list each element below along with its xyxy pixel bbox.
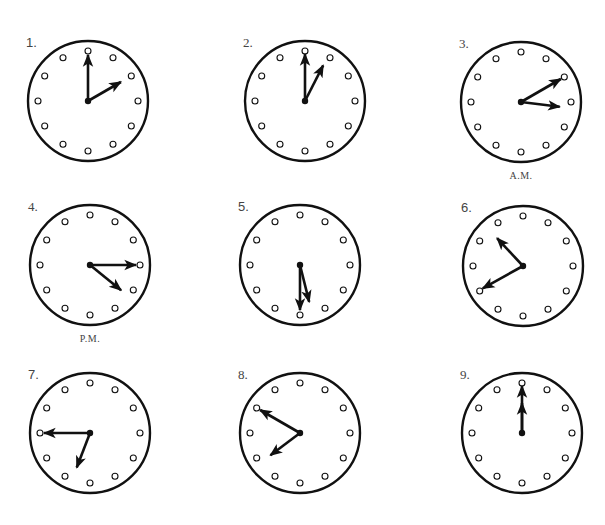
hour-marker-icon xyxy=(137,262,143,268)
clock-4: 4.P.M. xyxy=(28,199,150,344)
clock-8: 8. xyxy=(238,367,360,493)
hour-marker-icon xyxy=(495,306,501,312)
hour-marker-icon xyxy=(302,148,308,154)
hour-marker-icon xyxy=(347,262,353,268)
hour-marker-icon xyxy=(87,212,93,218)
hour-marker-icon xyxy=(60,141,66,147)
hour-marker-icon xyxy=(327,141,333,147)
hour-marker-icon xyxy=(476,455,482,461)
hour-marker-icon xyxy=(470,263,476,269)
hour-marker-icon xyxy=(563,288,569,294)
hour-marker-icon xyxy=(494,473,500,479)
clock-6: 6. xyxy=(461,200,583,326)
hour-marker-icon xyxy=(272,473,278,479)
hour-marker-icon xyxy=(545,306,551,312)
hour-marker-icon xyxy=(62,305,68,311)
hour-marker-icon xyxy=(35,98,41,104)
hour-marker-icon xyxy=(135,98,141,104)
hour-marker-icon xyxy=(340,455,346,461)
center-pivot-icon xyxy=(302,98,308,104)
hour-marker-icon xyxy=(272,305,278,311)
hour-marker-icon xyxy=(259,73,265,79)
hour-marker-icon xyxy=(87,480,93,486)
hour-marker-icon xyxy=(518,149,524,155)
hour-marker-icon xyxy=(475,74,481,80)
hour-marker-icon xyxy=(519,380,525,386)
hour-marker-icon xyxy=(44,405,50,411)
hour-marker-icon xyxy=(544,473,550,479)
hour-marker-icon xyxy=(137,430,143,436)
hour-marker-icon xyxy=(254,237,260,243)
hour-marker-icon xyxy=(259,123,265,129)
clock-3: 3.A.M. xyxy=(459,36,581,181)
hour-marker-icon xyxy=(272,219,278,225)
hour-marker-icon xyxy=(352,98,358,104)
hour-marker-icon xyxy=(520,213,526,219)
hour-marker-icon xyxy=(87,312,93,318)
clock-number-label: 2. xyxy=(243,35,253,50)
hour-marker-icon xyxy=(44,287,50,293)
clock-2: 2. xyxy=(243,35,365,161)
hour-marker-icon xyxy=(327,55,333,61)
hour-marker-icon xyxy=(519,480,525,486)
center-pivot-icon xyxy=(519,430,525,436)
clock-7: 7. xyxy=(28,367,150,493)
hour-marker-icon xyxy=(254,287,260,293)
center-pivot-icon xyxy=(297,430,303,436)
clock-number-label: 9. xyxy=(460,367,470,382)
hour-marker-icon xyxy=(112,387,118,393)
hour-marker-icon xyxy=(37,430,43,436)
hour-marker-icon xyxy=(322,305,328,311)
hour-marker-icon xyxy=(543,142,549,148)
hour-marker-icon xyxy=(340,405,346,411)
hour-marker-icon xyxy=(110,55,116,61)
hour-marker-icon xyxy=(493,142,499,148)
hour-marker-icon xyxy=(569,430,575,436)
hour-marker-icon xyxy=(130,237,136,243)
clock-9: 9. xyxy=(460,367,582,493)
hour-marker-icon xyxy=(60,55,66,61)
hour-marker-icon xyxy=(494,387,500,393)
hour-marker-icon xyxy=(112,473,118,479)
hour-marker-icon xyxy=(545,220,551,226)
hour-marker-icon xyxy=(340,287,346,293)
clock-5: 5. xyxy=(238,199,360,325)
hour-marker-icon xyxy=(322,473,328,479)
hour-marker-icon xyxy=(570,263,576,269)
center-pivot-icon xyxy=(87,262,93,268)
hour-marker-icon xyxy=(247,262,253,268)
clock-number-label: 6. xyxy=(461,200,472,215)
hour-marker-icon xyxy=(477,288,483,294)
hour-marker-icon xyxy=(37,262,43,268)
hour-marker-icon xyxy=(469,430,475,436)
hour-marker-icon xyxy=(302,48,308,54)
hour-marker-icon xyxy=(297,312,303,318)
hour-marker-icon xyxy=(562,405,568,411)
hour-marker-icon xyxy=(475,124,481,130)
hour-marker-icon xyxy=(130,287,136,293)
center-pivot-icon xyxy=(297,262,303,268)
hour-marker-icon xyxy=(345,73,351,79)
period-label: A.M. xyxy=(509,170,532,181)
hour-marker-icon xyxy=(130,405,136,411)
hour-marker-icon xyxy=(562,455,568,461)
hour-marker-icon xyxy=(87,380,93,386)
clock-number-label: 5. xyxy=(238,199,249,214)
hour-marker-icon xyxy=(477,238,483,244)
hour-marker-icon xyxy=(518,49,524,55)
hour-marker-icon xyxy=(272,387,278,393)
hour-marker-icon xyxy=(297,212,303,218)
hour-marker-icon xyxy=(112,305,118,311)
hour-marker-icon xyxy=(62,387,68,393)
hour-marker-icon xyxy=(297,380,303,386)
clock-number-label: 4. xyxy=(28,199,38,214)
center-pivot-icon xyxy=(518,99,524,105)
clock-number-label: 7. xyxy=(28,367,39,382)
hour-marker-icon xyxy=(347,430,353,436)
hour-marker-icon xyxy=(561,74,567,80)
hour-marker-icon xyxy=(254,455,260,461)
hour-marker-icon xyxy=(42,73,48,79)
hour-marker-icon xyxy=(493,56,499,62)
hour-marker-icon xyxy=(62,219,68,225)
hour-marker-icon xyxy=(544,387,550,393)
